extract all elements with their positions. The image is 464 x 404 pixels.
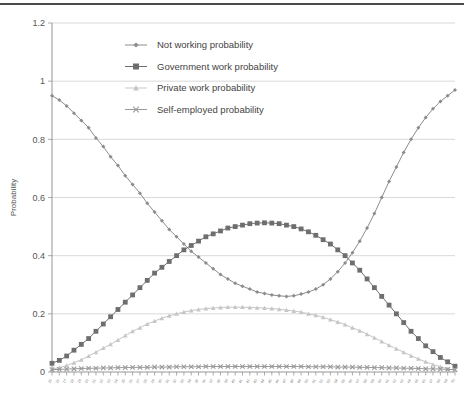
series-marker-diamond	[365, 226, 369, 230]
xtick-label: 42	[245, 379, 250, 384]
series-marker-square	[57, 358, 62, 363]
xtick-label: 56	[348, 379, 353, 384]
series-marker-diamond	[262, 291, 266, 295]
series-marker-square	[247, 221, 252, 226]
series-marker-square	[189, 243, 194, 248]
xtick-label: 17	[62, 379, 67, 384]
series-marker-diamond	[248, 287, 252, 291]
series-marker-square	[181, 247, 186, 252]
xtick-label: 62	[392, 379, 397, 384]
ytick-label: 1	[40, 76, 45, 86]
series-marker-square	[86, 336, 91, 341]
series-marker-diamond	[292, 294, 296, 298]
series-marker-square	[79, 342, 84, 347]
xtick-label: 23	[106, 379, 111, 384]
series-marker-diamond	[372, 211, 376, 215]
series-marker-triangle	[365, 332, 370, 336]
series-marker-square	[387, 303, 392, 308]
series-marker-triangle	[130, 329, 135, 333]
xtick-label: 28	[143, 379, 148, 384]
series-marker-square	[225, 226, 230, 231]
xtick-label: 34	[187, 379, 192, 384]
xtick-label: 16	[55, 379, 60, 384]
xtick-label: 59	[370, 379, 375, 384]
ytick-label: 0.4	[32, 251, 45, 261]
series-marker-diamond	[306, 290, 310, 294]
xtick-label: 35	[194, 379, 199, 384]
series-marker-square	[335, 247, 340, 252]
xtick-label: 31	[165, 379, 170, 384]
series-marker-diamond	[402, 150, 406, 154]
xtick-label: 50	[304, 379, 309, 384]
series-line	[52, 223, 455, 366]
series-marker-square	[372, 285, 377, 290]
series-marker-square	[277, 221, 282, 226]
series-marker-triangle	[394, 346, 399, 350]
series-marker-square	[401, 320, 406, 325]
series-marker-triangle	[401, 350, 406, 354]
series-marker-square	[423, 343, 428, 348]
series-1	[50, 220, 458, 368]
series-marker-square	[365, 277, 370, 282]
xtick-label: 70	[450, 379, 455, 384]
xtick-label: 57	[355, 379, 360, 384]
series-marker-triangle	[379, 339, 384, 343]
series-marker-triangle	[79, 357, 84, 361]
series-marker-square	[379, 294, 384, 299]
series-marker-square	[167, 259, 172, 264]
series-marker-square	[409, 329, 414, 334]
series-marker-diamond	[394, 165, 398, 169]
series-marker-triangle	[116, 338, 121, 342]
xtick-label: 65	[414, 379, 419, 384]
series-marker-square	[196, 239, 201, 244]
series-marker-square	[211, 231, 216, 236]
xtick-label: 60	[377, 379, 382, 384]
xtick-label: 30	[157, 379, 162, 384]
series-marker-square	[262, 220, 267, 225]
xtick-label: 55	[341, 379, 346, 384]
xtick-label: 18	[69, 379, 74, 384]
series-marker-triangle	[372, 335, 377, 339]
series-marker-square	[145, 278, 150, 283]
legend-label-2: Private work probability	[157, 82, 255, 93]
xtick-label: 21	[91, 379, 96, 384]
ytick-label: 0.6	[32, 193, 45, 203]
series-marker-square	[321, 237, 326, 242]
xtick-label: 54	[333, 379, 338, 384]
chart-legend: Not working probabilityGovernment work p…	[125, 39, 278, 115]
xtick-label: 25	[121, 379, 126, 384]
series-marker-square	[438, 355, 443, 360]
probability-line-chart: 00.20.40.60.811.2Probability151617181920…	[0, 0, 464, 404]
series-marker-square	[108, 314, 113, 319]
series-marker-square	[445, 359, 450, 364]
series-marker-triangle	[86, 354, 91, 358]
series-marker-triangle	[138, 325, 143, 329]
series-marker-square	[299, 227, 304, 232]
xtick-label: 64	[407, 379, 412, 384]
series-marker-square	[255, 221, 260, 226]
y-axis-title: Probability	[9, 179, 18, 216]
series-marker-diamond	[277, 294, 281, 298]
ytick-label: 0	[40, 367, 45, 377]
series-marker-square	[94, 329, 99, 334]
series-marker-square	[306, 229, 311, 234]
series-marker-square	[50, 361, 55, 366]
series-marker-diamond	[387, 180, 391, 184]
series-marker-diamond	[255, 290, 259, 294]
xtick-label: 48	[289, 379, 294, 384]
series-marker-triangle	[94, 350, 99, 354]
series-marker-diamond	[284, 294, 288, 298]
series-marker-square	[328, 242, 333, 247]
xtick-label: 58	[363, 379, 368, 384]
legend-label-1: Government work probability	[157, 61, 278, 72]
xtick-label: 20	[84, 379, 89, 384]
xtick-label: 52	[319, 379, 324, 384]
series-0	[50, 88, 457, 298]
legend-label-0: Not working probability	[157, 39, 253, 50]
xtick-label: 19	[77, 379, 82, 384]
series-marker-square	[116, 307, 121, 312]
xtick-label: 26	[128, 379, 133, 384]
xtick-label: 40	[231, 379, 236, 384]
xtick-label: 33	[179, 379, 184, 384]
xtick-label: 46	[275, 379, 280, 384]
